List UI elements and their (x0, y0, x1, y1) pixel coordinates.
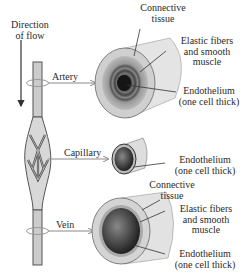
vein-endothelium-label: Endothelium (one cell thick) (166, 249, 244, 270)
blood-vessel-diagram: Direction of flow Artery Capillary Vein … (0, 0, 249, 280)
capillary-label: Capillary (64, 148, 101, 159)
artery-elastic-fibers-label: Elastic fibers and smooth muscle (166, 36, 248, 68)
vein-connective-tissue-label: Connective tissue (134, 180, 210, 201)
artery-label: Artery (52, 72, 78, 83)
label-line: Connective (134, 180, 210, 191)
vein-elastic-fibers-label: Elastic fibers and smooth muscle (165, 204, 247, 236)
capillary-cross-section (112, 138, 147, 174)
label-line: tissue (125, 14, 201, 25)
label-line: Endothelium (166, 249, 244, 260)
label-line: (one cell thick) (170, 97, 248, 108)
label-line: muscle (166, 57, 248, 68)
flow-direction-label: Direction of flow (2, 20, 58, 41)
flow-label-line1: Direction (2, 20, 58, 31)
flow-label-line2: of flow (2, 31, 58, 42)
label-line: Elastic fibers (166, 36, 248, 47)
artery-endothelium-label: Endothelium (one cell thick) (170, 86, 248, 107)
artery-connective-tissue-label: Connective tissue (125, 3, 201, 24)
vein-label: Vein (56, 220, 74, 231)
label-line: Endothelium (166, 155, 244, 166)
label-line: (one cell thick) (166, 260, 244, 271)
label-line: Elastic fibers (165, 204, 247, 215)
capillary-endothelium-label: Endothelium (one cell thick) (166, 155, 244, 176)
label-line: Connective (125, 3, 201, 14)
label-line: (one cell thick) (166, 166, 244, 177)
label-line: muscle (165, 225, 247, 236)
label-line: tissue (134, 191, 210, 202)
label-line: Endothelium (170, 86, 248, 97)
